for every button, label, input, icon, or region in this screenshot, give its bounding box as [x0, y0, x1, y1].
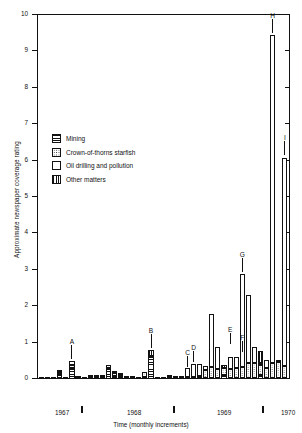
- y-tick-label: 8: [0, 84, 28, 90]
- callout-g: G: [236, 251, 248, 272]
- oil-swatch-icon: [52, 161, 61, 170]
- bar-segment-mining: [148, 356, 153, 379]
- bar-segment-oil: [185, 368, 190, 377]
- bar-column: [142, 372, 147, 379]
- bar-column: [197, 364, 202, 379]
- x-axis-tick-mark: [81, 406, 83, 413]
- y-tick-label: 0: [0, 375, 28, 381]
- bar-segment-starfish: [258, 365, 263, 375]
- callout-a: A: [66, 338, 78, 359]
- y-tick-label: 2: [0, 302, 28, 308]
- bar-segment-mining: [136, 377, 141, 379]
- bar-segment-other: [148, 350, 153, 357]
- bar-segment-starfish: [57, 372, 62, 374]
- bar-segment-oil: [234, 357, 239, 368]
- y-tick-label: 1: [0, 338, 28, 344]
- bar-column: [221, 365, 226, 379]
- callout-leader-line: [230, 333, 231, 344]
- callout-label: B: [145, 327, 157, 334]
- bar-column: [106, 365, 111, 379]
- bar-column: [282, 158, 287, 379]
- bar-segment-mining: [88, 377, 93, 379]
- legend-item-mining: Mining: [52, 132, 135, 146]
- bar-segment-oil: [258, 363, 263, 365]
- callout-leader-line: [71, 345, 72, 359]
- callout-label: E: [224, 326, 236, 333]
- bar-segment-starfish: [179, 376, 184, 378]
- bar-column: [240, 274, 245, 379]
- bar-segment-starfish: [124, 376, 129, 378]
- bar-segment-starfish: [252, 363, 257, 378]
- callout-leader-line: [193, 351, 194, 362]
- chart-legend: Mining Crown-of-thorns starfish Oil dril…: [52, 132, 135, 186]
- bar-segment-starfish: [209, 367, 214, 378]
- bar-column: [75, 377, 80, 379]
- bar-segment-starfish: [167, 375, 172, 377]
- bar-segment-mining: [118, 377, 123, 379]
- bar-segment-starfish: [75, 376, 80, 378]
- legend-item-oil: Oil drilling and pollution: [52, 159, 135, 173]
- callout-b: B: [145, 327, 157, 348]
- callout-label: G: [236, 251, 248, 258]
- legend-item-starfish: Crown-of-thorns starfish: [52, 146, 135, 160]
- x-axis-tick-mark: [173, 406, 175, 413]
- bar-segment-starfish: [228, 369, 233, 378]
- bar-segment-starfish: [142, 372, 147, 376]
- bar-segment-oil: [215, 347, 220, 369]
- bar-column: [148, 350, 153, 379]
- bar-segment-starfish: [246, 363, 251, 378]
- callout-f: F: [236, 334, 248, 352]
- other-swatch-icon: [52, 175, 61, 184]
- bar-column: [136, 378, 141, 379]
- bar-column: [270, 35, 275, 379]
- callout-label: H: [267, 12, 279, 19]
- legend-label: Other matters: [66, 176, 106, 183]
- y-tick-label: 7: [0, 120, 28, 126]
- bar-column: [51, 378, 56, 379]
- bar-column: [234, 357, 239, 379]
- bar-column: [63, 378, 68, 379]
- bar-segment-mining: [100, 377, 105, 379]
- bar-segment-oil: [209, 314, 214, 368]
- bar-column: [228, 357, 233, 379]
- x-axis-title: Time (monthly increments): [0, 421, 302, 428]
- bar-column: [173, 377, 178, 379]
- bar-segment-starfish: [282, 366, 287, 378]
- starfish-swatch-icon: [52, 148, 61, 157]
- bar-column: [258, 351, 263, 379]
- bar-segment-oil: [270, 35, 275, 363]
- callout-leader-line: [151, 334, 152, 348]
- callout-leader-line: [284, 141, 285, 155]
- bar-segment-oil: [240, 274, 245, 367]
- bar-column: [276, 361, 281, 379]
- y-tick-label: 6: [0, 156, 28, 162]
- bar-segment-mining: [142, 377, 147, 379]
- bar-column: [209, 313, 214, 379]
- bar-segment-other: [118, 373, 123, 375]
- bar-segment-other: [221, 365, 226, 369]
- y-tick-label: 4: [0, 229, 28, 235]
- x-axis-year-label: 1968: [127, 409, 141, 416]
- bar-column: [88, 375, 93, 379]
- bar-segment-mining: [167, 377, 172, 379]
- bar-column: [69, 361, 74, 379]
- bar-segment-oil: [69, 361, 74, 365]
- callout-leader-line: [242, 341, 243, 352]
- bar-segment-starfish: [88, 375, 93, 377]
- bar-segment-oil: [57, 370, 62, 372]
- bar-segment-mining: [45, 377, 50, 379]
- bar-segment-starfish: [69, 365, 74, 368]
- bar-segment-mining: [106, 368, 111, 379]
- bar-segment-starfish: [106, 365, 111, 369]
- bar-segment-starfish: [276, 362, 281, 378]
- y-tick-label: 3: [0, 266, 28, 272]
- callout-d: D: [188, 344, 200, 362]
- bar-segment-oil: [276, 360, 281, 362]
- bar-column: [252, 347, 257, 379]
- bar-column: [167, 376, 172, 379]
- callout-i: I: [279, 134, 291, 155]
- x-axis-tick-mark: [262, 406, 264, 413]
- x-axis-year-label: 1970: [281, 409, 295, 416]
- bar-column: [203, 366, 208, 379]
- bar-segment-starfish: [100, 375, 105, 377]
